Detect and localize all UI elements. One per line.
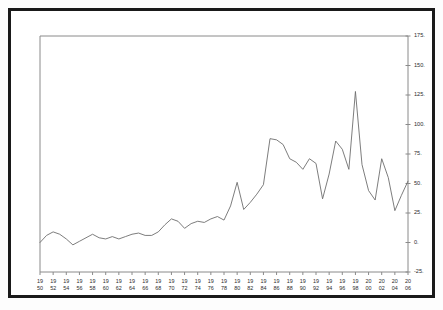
x-tick-label-century: 20 [366, 278, 372, 284]
x-tick-label-year: 00 [366, 285, 372, 291]
x-tick-label-year: 82 [247, 285, 253, 291]
x-tick-label-year: 96 [339, 285, 345, 291]
x-tick-label-year: 92 [313, 285, 319, 291]
x-tick-label-year: 68 [155, 285, 161, 291]
x-tick-label-year: 02 [379, 285, 385, 291]
plot-frame [40, 36, 408, 272]
x-tick-label-century: 19 [168, 278, 174, 284]
x-tick-label-century: 19 [326, 278, 332, 284]
x-tick-label-century: 19 [103, 278, 109, 284]
y-tick-label: 150. [414, 62, 425, 68]
x-tick-label-year: 90 [300, 285, 306, 291]
x-tick-label-century: 19 [50, 278, 56, 284]
x-tick-label-century: 20 [379, 278, 385, 284]
chart-page: 175.150.125.100.75.50.25.0.-25. 19501952… [0, 0, 443, 310]
x-tick-label-century: 19 [37, 278, 43, 284]
y-tick-label: 25. [414, 209, 422, 215]
series-line-series-1 [40, 91, 408, 244]
x-tick-label-century: 19 [63, 278, 69, 284]
x-tick-label-year: 06 [405, 285, 411, 291]
x-tick-label-year: 74 [195, 285, 201, 291]
x-tick-label-year: 60 [103, 285, 109, 291]
x-tick-label-year: 76 [208, 285, 214, 291]
x-tick-label-century: 20 [405, 278, 411, 284]
x-tick-label-year: 62 [116, 285, 122, 291]
x-tick-label-century: 19 [234, 278, 240, 284]
x-tick-label-year: 80 [234, 285, 240, 291]
x-tick-label-century: 19 [274, 278, 280, 284]
x-tick-label-year: 52 [50, 285, 56, 291]
line-chart: 175.150.125.100.75.50.25.0.-25. 19501952… [0, 0, 443, 310]
x-tick-label-century: 19 [352, 278, 358, 284]
series-group [40, 91, 408, 244]
x-tick-label-year: 94 [326, 285, 332, 291]
x-tick-label-year: 86 [274, 285, 280, 291]
x-tick-label-year: 70 [168, 285, 174, 291]
x-tick-label-year: 54 [63, 285, 69, 291]
x-tick-label-year: 84 [260, 285, 266, 291]
y-tick-label: 175. [414, 32, 425, 38]
y-tick-label: 0. [414, 239, 419, 245]
x-tick-label-century: 19 [300, 278, 306, 284]
x-tick-label-century: 19 [260, 278, 266, 284]
x-tick-label-year: 56 [76, 285, 82, 291]
x-tick-label-year: 04 [392, 285, 398, 291]
x-tick-label-century: 19 [339, 278, 345, 284]
x-tick-label-year: 72 [182, 285, 188, 291]
y-tick-label: 75. [414, 150, 422, 156]
y-tick-label: 125. [414, 91, 425, 97]
x-tick-label-century: 19 [155, 278, 161, 284]
y-tick-label: 50. [414, 180, 422, 186]
y-tick-labels: 175.150.125.100.75.50.25.0.-25. [414, 32, 425, 274]
y-tick-label: -25. [414, 268, 424, 274]
x-tick-label-century: 19 [195, 278, 201, 284]
x-tick-label-century: 19 [208, 278, 214, 284]
x-tick-label-century: 19 [116, 278, 122, 284]
x-tick-label-year: 58 [90, 285, 96, 291]
x-tick-label-year: 88 [287, 285, 293, 291]
x-tick-label-century: 19 [182, 278, 188, 284]
x-tick-label-year: 98 [352, 285, 358, 291]
x-tick-label-year: 50 [37, 285, 43, 291]
x-tick-label-century: 19 [90, 278, 96, 284]
x-tick-label-year: 78 [221, 285, 227, 291]
x-tick-label-year: 64 [129, 285, 135, 291]
x-tick-label-century: 20 [392, 278, 398, 284]
x-tick-label-year: 66 [142, 285, 148, 291]
x-tick-label-century: 19 [129, 278, 135, 284]
x-tick-label-century: 19 [247, 278, 253, 284]
x-tick-label-century: 19 [142, 278, 148, 284]
x-tick-label-century: 19 [76, 278, 82, 284]
x-tick-label-century: 19 [221, 278, 227, 284]
x-tick-label-century: 19 [313, 278, 319, 284]
y-tick-label: 100. [414, 121, 425, 127]
x-axis [40, 272, 408, 275]
x-tick-labels: 1950195219541956195819601962196419661968… [37, 278, 411, 291]
x-tick-label-century: 19 [287, 278, 293, 284]
chart-svg: 175.150.125.100.75.50.25.0.-25. 19501952… [0, 0, 443, 310]
